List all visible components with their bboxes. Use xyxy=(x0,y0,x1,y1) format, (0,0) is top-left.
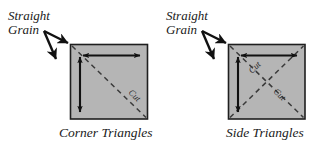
straight-grain-label-line1: Straight xyxy=(166,8,208,23)
panel-caption-side: Side Triangles xyxy=(226,125,304,140)
straight-grain-label-line2: Grain xyxy=(8,22,39,37)
quilting-triangle-cutting-diagram: Cut Straight Grain Corner Triangles Cut … xyxy=(0,0,316,145)
panel-caption-corner: Corner Triangles xyxy=(59,125,152,140)
straight-grain-label-line1: Straight xyxy=(8,8,50,23)
straight-grain-label-line2: Grain xyxy=(166,22,197,37)
panel-side-triangles: Cut Cut Straight Grain Side Triangles xyxy=(166,8,305,140)
panel-corner-triangles: Cut Straight Grain Corner Triangles xyxy=(8,8,152,140)
